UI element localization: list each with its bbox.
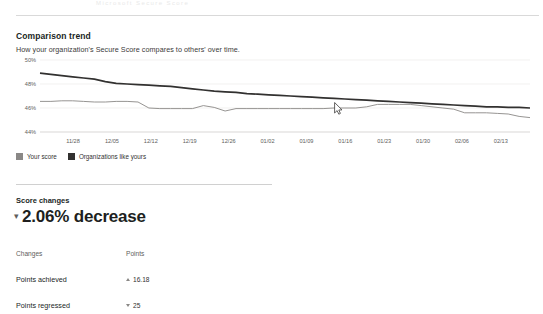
- svg-text:12/05: 12/05: [105, 138, 119, 144]
- svg-text:01/23: 01/23: [377, 138, 391, 144]
- legend-swatch-your-score: [16, 153, 23, 160]
- svg-text:01/16: 01/16: [338, 138, 352, 144]
- triangle-up-icon: [126, 278, 130, 281]
- table-header-row: Changes Points: [16, 240, 276, 266]
- svg-text:11/28: 11/28: [66, 138, 80, 144]
- svg-text:50%: 50%: [25, 57, 36, 63]
- score-change-value: 2.06% decrease: [22, 207, 146, 227]
- svg-text:44%: 44%: [25, 129, 36, 135]
- mouse-cursor-icon: [334, 102, 343, 115]
- row-value-points-regressed: 25: [133, 302, 140, 309]
- score-changes-title: Score changes: [16, 196, 69, 205]
- chart-svg: 50%48%46%44%11/2812/0512/1212/1912/2601/…: [16, 56, 532, 146]
- top-divider: [16, 15, 539, 16]
- comparison-trend-title: Comparison trend: [16, 31, 91, 41]
- column-header-changes: Changes: [16, 250, 126, 257]
- table-row[interactable]: Points achieved 16.18: [16, 266, 276, 292]
- row-points-regressed: 25: [126, 302, 246, 309]
- triangle-down-icon: [126, 304, 130, 307]
- decrease-arrow-icon: ▾: [14, 212, 19, 221]
- legend-label-your-score: Your score: [27, 153, 57, 160]
- comparison-trend-chart[interactable]: 50%48%46%44%11/2812/0512/1212/1912/2601/…: [16, 56, 532, 146]
- svg-text:48%: 48%: [25, 81, 36, 87]
- svg-text:12/19: 12/19: [183, 138, 197, 144]
- svg-text:01/02: 01/02: [261, 138, 275, 144]
- score-changes-table: Changes Points Points achieved 16.18 Poi…: [16, 240, 276, 314]
- svg-text:12/26: 12/26: [222, 138, 236, 144]
- row-points-achieved: 16.18: [126, 276, 246, 283]
- score-changes-headline: ▾ 2.06% decrease: [14, 207, 146, 227]
- column-header-points: Points: [126, 250, 246, 257]
- legend-item-peer-score[interactable]: Organizations like yours: [68, 153, 146, 160]
- legend-item-your-score[interactable]: Your score: [16, 153, 57, 160]
- score-changes-divider: [16, 184, 272, 185]
- svg-text:01/09: 01/09: [299, 138, 313, 144]
- svg-text:01/30: 01/30: [416, 138, 430, 144]
- row-label-points-regressed: Points regressed: [16, 301, 126, 310]
- top-partial-text: Microsoft Secure Score: [96, 0, 189, 6]
- chart-legend: Your score Organizations like yours: [16, 153, 146, 160]
- svg-text:12/12: 12/12: [144, 138, 158, 144]
- comparison-trend-subtitle: How your organization's Secure Score com…: [16, 45, 240, 54]
- table-row[interactable]: Points regressed 25: [16, 292, 276, 314]
- chart-series-organizations-like-yours: [40, 73, 530, 108]
- legend-swatch-peer-score: [68, 153, 75, 160]
- legend-label-peer-score: Organizations like yours: [79, 153, 146, 160]
- chart-series-your-score: [40, 101, 530, 118]
- row-label-points-achieved: Points achieved: [16, 275, 126, 284]
- svg-text:02/06: 02/06: [455, 138, 469, 144]
- svg-text:46%: 46%: [25, 105, 36, 111]
- row-value-points-achieved: 16.18: [133, 276, 150, 283]
- svg-text:02/13: 02/13: [494, 138, 508, 144]
